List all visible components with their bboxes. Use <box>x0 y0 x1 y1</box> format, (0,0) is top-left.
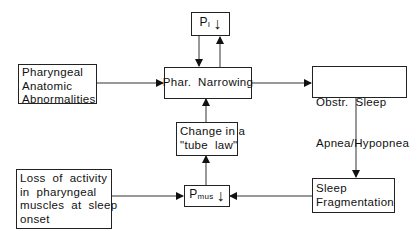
node-text: onset <box>20 213 108 227</box>
node-text: in pharyngeal <box>20 186 108 200</box>
node-text: Loss of activity <box>20 172 108 186</box>
node-loss-of-muscle-activity: Loss of activity in pharyngeal muscles a… <box>16 169 112 229</box>
node-text: Apnea/Hypopnea <box>316 137 403 151</box>
node-text: muscles at sleep <box>20 199 108 213</box>
node-intraluminal-pressure: PI ↓ <box>191 12 230 36</box>
node-text: Change in a <box>180 125 234 139</box>
node-text: Pharyngeal <box>22 66 93 80</box>
node-text: "tube law" <box>180 139 234 153</box>
node-tube-law-change: Change in a "tube law" <box>176 122 238 156</box>
decrease-arrow-icon: ↓ <box>213 17 221 31</box>
node-pharyngeal-anatomic-abnormalities: Pharyngeal Anatomic Abnormalities <box>18 64 97 104</box>
pmus-symbol: Pmus <box>189 188 213 204</box>
node-text: Anatomic <box>22 80 93 94</box>
node-text: Obstr. Sleep <box>316 96 403 110</box>
node-text: Fragmentation <box>316 196 391 210</box>
node-text: Sleep <box>316 182 391 196</box>
node-muscle-pressure: Pmus ↓ <box>184 185 230 207</box>
node-text: Abnormalities <box>22 93 93 107</box>
node-sleep-fragmentation: Sleep Fragmentation <box>312 178 395 213</box>
node-obstructive-sleep-apnea: Obstr. Sleep Apnea/Hypopnea <box>312 66 407 98</box>
node-pharyngeal-narrowing: Phar. Narrowing <box>164 67 252 99</box>
decrease-arrow-icon: ↓ <box>217 189 225 203</box>
pi-symbol: PI <box>199 16 210 32</box>
node-text: Phar. Narrowing <box>163 76 253 90</box>
